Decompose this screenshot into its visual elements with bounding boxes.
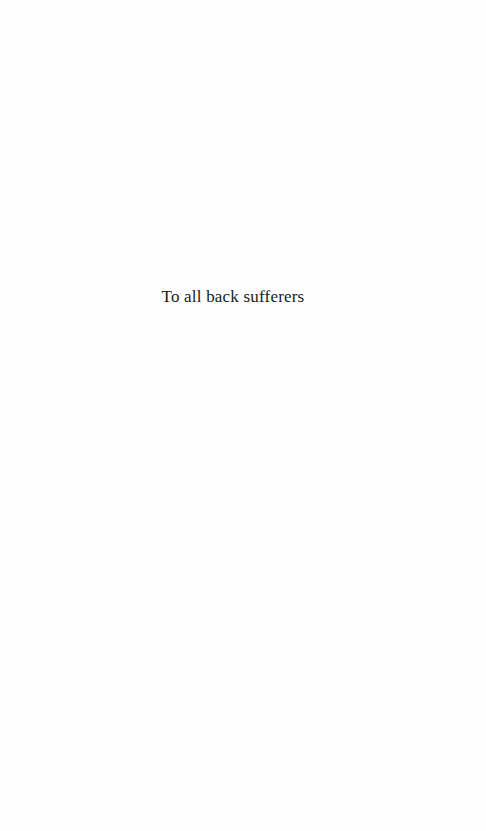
dedication-text: To all back sufferers [0,286,466,308]
book-page: To all back sufferers [0,0,486,831]
